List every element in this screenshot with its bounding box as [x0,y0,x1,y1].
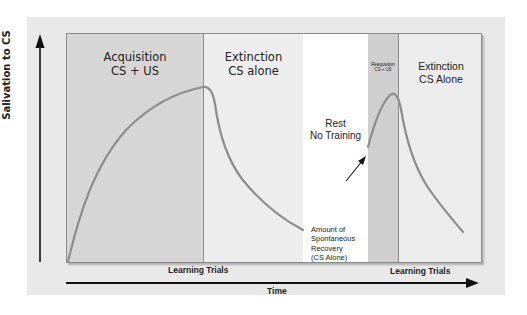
learning-trials-label-2: Learning Trials [390,266,450,276]
y-axis-arrow-icon [36,34,45,48]
time-label: Time [267,286,287,296]
learning-trials-label-1: Learning Trials [168,265,228,275]
y-axis-label: Salivation to CS [1,20,12,130]
time-axis-arrow-icon [466,278,479,288]
